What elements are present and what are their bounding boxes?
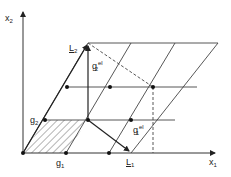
x2-axis-label: x2: [5, 14, 13, 24]
x1-axis-label: x1: [209, 158, 217, 168]
g2-el-label: gel2: [92, 60, 98, 72]
horizontal-grid-lines: [45, 43, 218, 120]
g1-el-vector: [88, 120, 129, 151]
L1-label: L1: [126, 158, 134, 168]
L2-label: L2: [69, 44, 77, 54]
g1-label: g1: [56, 159, 64, 169]
g2-label: g2: [30, 116, 38, 126]
g1-el-label: gel1: [133, 124, 139, 136]
lattice-diagram: [0, 0, 231, 177]
